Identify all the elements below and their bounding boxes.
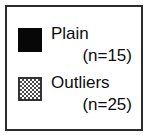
legend-swatch-plain-icon (18, 28, 42, 52)
legend-box: Plain (n=15) Outliers (n=25) (5, 5, 143, 131)
legend-entry-plain[interactable]: Plain (n=15) (7, 23, 141, 71)
legend-panel: Plain (n=15) Outliers (n=25) (0, 0, 148, 139)
legend-count-outliers: (n=25) (82, 95, 132, 115)
legend-entry-outliers[interactable]: Outliers (n=25) (7, 72, 141, 120)
legend-swatch-outliers-icon (18, 77, 42, 101)
legend-count-plain: (n=15) (82, 46, 132, 66)
legend-label-outliers: Outliers (51, 73, 110, 93)
legend-label-plain: Plain (51, 24, 89, 44)
